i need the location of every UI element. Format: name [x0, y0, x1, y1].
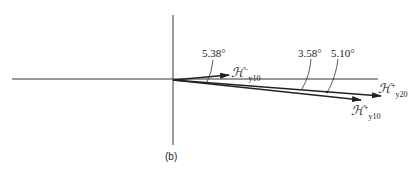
leader-angle-3	[327, 59, 338, 93]
angle-label-2: 3.58°	[298, 48, 322, 59]
leader-angle-2	[302, 59, 311, 89]
phasor-diagram	[0, 0, 411, 172]
angle-label-1: 5.38°	[202, 48, 226, 59]
angle-label-3: 5.10°	[331, 48, 355, 59]
vector-label-h-plus-y20: ℋ+y20	[378, 82, 408, 99]
vector-label-h-minus-y10: ℋ−y10	[231, 66, 261, 83]
vector-h-plus-y20	[173, 80, 381, 96]
figure-caption: (b)	[165, 151, 177, 162]
vector-label-h-plus-y10: ℋ+y10	[351, 104, 381, 121]
vector-h-plus-y10	[173, 80, 361, 100]
